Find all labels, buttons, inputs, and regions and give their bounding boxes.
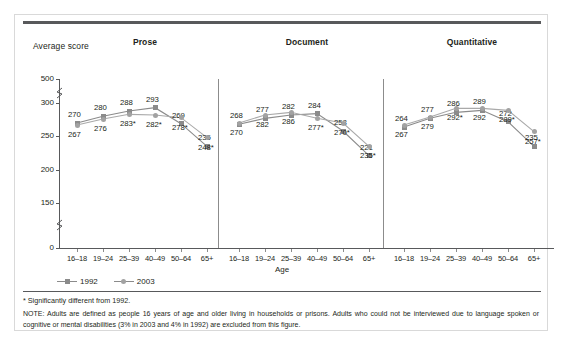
chart-legend: 1992 2003	[57, 277, 155, 286]
legend-entry-2003: 2003	[114, 277, 155, 286]
significance-footnote: * Significantly different from 1992.	[23, 296, 130, 305]
circle-marker-icon	[121, 279, 126, 284]
data-label-1992-16–18: 264	[395, 114, 408, 123]
data-label-2003-16–18: 267	[395, 130, 408, 139]
legend-swatch-2003	[114, 281, 134, 282]
data-label-1992-40–49: 289	[473, 97, 486, 106]
series-lines-quantitative	[15, 27, 549, 263]
footnote-divider	[23, 291, 541, 292]
figure-card: Average score 5003002502001500Prose16–18…	[14, 14, 548, 331]
top-rule	[23, 21, 541, 24]
x-axis-title: Age	[15, 265, 549, 274]
data-point-2003-65+	[532, 129, 537, 134]
data-label-2003-50–64: 289*	[499, 115, 515, 124]
legend-swatch-1992	[57, 281, 77, 282]
data-label-2003-65+: 257*	[525, 137, 541, 146]
legend-entry-1992: 1992	[57, 277, 98, 286]
data-point-2003-19–24	[428, 115, 433, 120]
legend-label-2003: 2003	[137, 277, 155, 286]
data-point-2003-25–39	[454, 106, 459, 111]
data-label-1992-19–24: 277	[421, 105, 434, 114]
data-label-2003-40–49: 292	[473, 113, 486, 122]
figure-note: NOTE: Adults are defined as people 16 ye…	[23, 309, 539, 331]
data-point-2003-50–64	[506, 108, 511, 113]
data-label-2003-19–24: 279	[421, 122, 434, 131]
plot-area: Average score 5003002502001500Prose16–18…	[15, 27, 549, 263]
legend-label-1992: 1992	[80, 277, 98, 286]
square-marker-icon	[65, 279, 70, 284]
data-point-2003-16–18	[402, 123, 407, 128]
data-point-2003-40–49	[480, 106, 485, 111]
data-label-2003-25–39: 292*	[447, 113, 463, 122]
